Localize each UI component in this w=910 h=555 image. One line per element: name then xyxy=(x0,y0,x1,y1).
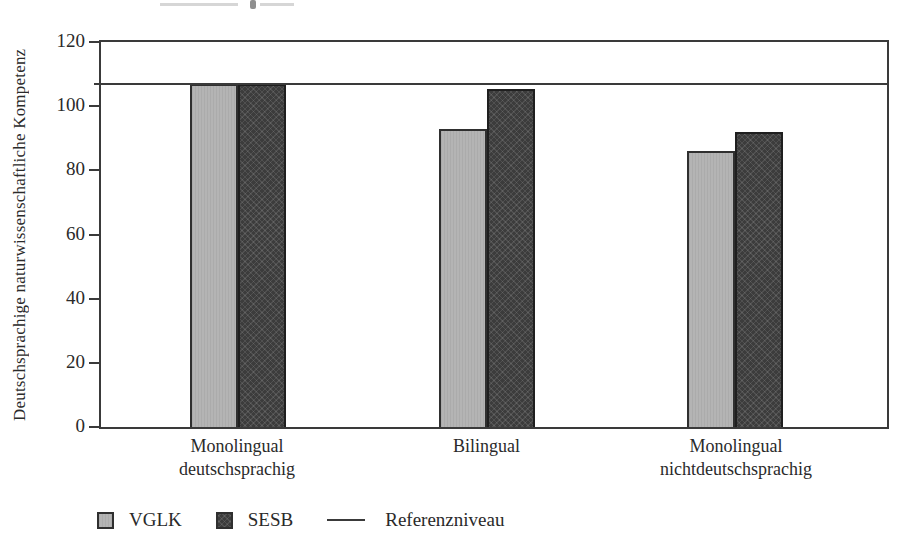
legend-swatch-sesb xyxy=(216,512,233,529)
y-tick-mark xyxy=(89,41,99,43)
y-tick-mark xyxy=(89,169,99,171)
artifact-mark xyxy=(160,3,238,6)
bar-vglk-group2 xyxy=(439,129,487,427)
y-tick-mark xyxy=(89,298,99,300)
y-tick-label: 0 xyxy=(76,415,86,437)
bar-vglk-group3 xyxy=(687,151,735,427)
category-label: Monolingual nichtdeutschsprachig xyxy=(660,435,812,481)
reference-line xyxy=(94,83,889,85)
y-tick-label: 80 xyxy=(66,158,85,180)
legend: VGLK SESB Referenzniveau xyxy=(97,505,504,535)
artifact-mark xyxy=(260,3,294,6)
chart-figure: Deutschsprachige naturwissenschaftliche … xyxy=(0,0,910,555)
cropped-text-artifact xyxy=(160,0,310,9)
bar-sesb-group2 xyxy=(487,89,535,427)
y-tick-mark xyxy=(89,105,99,107)
y-tick-mark xyxy=(89,426,99,428)
bar-sesb-group3 xyxy=(735,132,783,427)
y-tick-mark xyxy=(89,362,99,364)
legend-swatch-vglk xyxy=(97,512,114,529)
y-axis-title: Deutschsprachige naturwissenschaftliche … xyxy=(6,40,34,429)
legend-label-sesb: SESB xyxy=(248,509,293,531)
plot-area: 020406080100120 xyxy=(99,40,889,429)
y-tick-label: 120 xyxy=(57,30,86,52)
bar-vglk-group1 xyxy=(190,84,238,427)
legend-label-vglk: VGLK xyxy=(129,509,182,531)
y-tick-label: 40 xyxy=(66,287,85,309)
y-tick-label: 60 xyxy=(66,223,85,245)
y-tick-mark xyxy=(89,234,99,236)
y-tick-label: 100 xyxy=(57,94,86,116)
artifact-mark xyxy=(250,0,256,9)
category-label: Monolingual deutschsprachig xyxy=(179,435,295,481)
category-label: Bilingual xyxy=(453,435,520,458)
y-tick-label: 20 xyxy=(66,351,85,373)
legend-label-referenzniveau: Referenzniveau xyxy=(385,509,504,531)
legend-reference-line-sample xyxy=(327,519,365,521)
x-axis-labels: Monolingual deutschsprachigBilingualMono… xyxy=(99,435,889,495)
bar-sesb-group1 xyxy=(238,84,286,427)
